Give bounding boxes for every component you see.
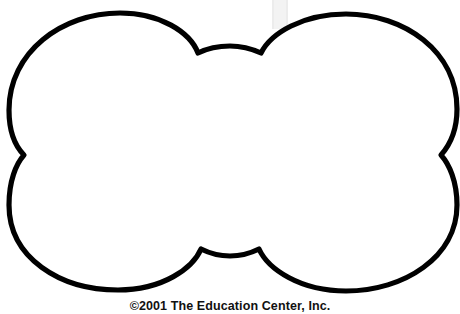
page-canvas: ©2001 The Education Center, Inc. (0, 0, 460, 314)
bone-outline-path (9, 13, 457, 291)
artboard (0, 0, 460, 314)
copyright-credit: ©2001 The Education Center, Inc. (0, 299, 460, 314)
bone-shape-outline (0, 0, 460, 314)
